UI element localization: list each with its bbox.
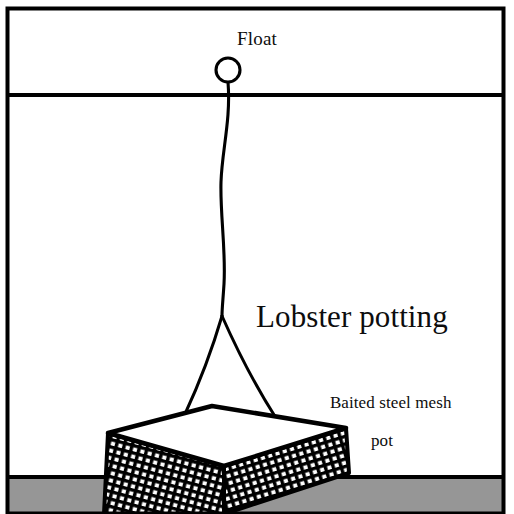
float-label: Float [0,28,514,49]
pot-caption-line2: pot [302,431,462,450]
float-buoy [216,58,240,82]
lobster-potting-diagram: Float Lobster potting Baited steel mesh … [0,0,514,514]
diagram-title: Lobster potting [256,300,448,335]
pot-caption-line1: Baited steel mesh [330,393,452,412]
above-water-region [8,9,503,95]
pot-caption: Baited steel mesh pot [302,374,462,488]
